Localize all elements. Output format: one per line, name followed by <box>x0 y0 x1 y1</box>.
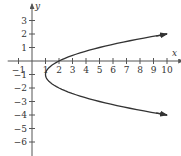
x-tick-label: 2 <box>56 65 62 75</box>
x-tick-label: 3 <box>70 65 76 75</box>
y-tick-label: −2 <box>14 83 27 93</box>
x-tick-label: 7 <box>124 65 130 75</box>
tick-labels: xy−112345678910321−1−2−3−4−5−6 <box>12 1 177 147</box>
tick-marks <box>19 21 168 143</box>
y-tick-label: 1 <box>21 43 27 53</box>
y-tick-label: 2 <box>21 29 27 39</box>
y-tick-label: −5 <box>14 124 28 134</box>
y-tick-label: −6 <box>14 137 28 147</box>
x-axis-label: x <box>172 48 177 58</box>
x-tick-label: 8 <box>137 65 143 75</box>
x-tick-label: 5 <box>97 65 103 75</box>
y-tick-label: −4 <box>14 110 28 120</box>
y-tick-label: 3 <box>21 16 27 26</box>
x-tick-label: 6 <box>110 65 116 75</box>
x-tick-label: 4 <box>83 65 89 75</box>
parabola-plot: xy−112345678910321−1−2−3−4−5−6 <box>0 0 181 156</box>
parabola-curve <box>46 34 168 115</box>
axes <box>8 4 181 156</box>
data-series <box>46 34 168 115</box>
x-tick-label: 9 <box>151 65 157 75</box>
y-tick-label: −1 <box>14 70 27 80</box>
y-axis-label: y <box>34 1 41 11</box>
chart-container: xy−112345678910321−1−2−3−4−5−6 <box>0 0 181 156</box>
x-tick-label: 10 <box>161 65 173 75</box>
y-tick-label: −3 <box>14 97 28 107</box>
